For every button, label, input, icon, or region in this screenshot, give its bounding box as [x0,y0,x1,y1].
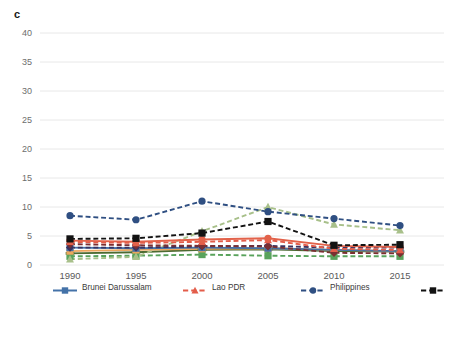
legend-swatch-icon [300,282,326,293]
legend-item-timor-leste[interactable]: Timor-Leste [420,281,450,294]
legend-item-brunei-darussalam[interactable]: Brunei Darussalam [52,281,182,294]
data-point-philippines-1990 [66,212,73,219]
x-tick-label: 2015 [389,270,410,280]
data-point-malaysia-2005 [264,235,271,242]
legend-item-lao-pdr[interactable]: Lao PDR [182,281,300,294]
data-point-philippines-2005 [264,208,271,215]
chart-svg: 0510152025303540 19901995200020052010201… [0,0,450,280]
data-point-philippines-2010 [330,215,337,222]
y-tick-label: 30 [22,86,32,96]
data-point-timor-leste-2005 [264,218,271,225]
legend-marker [62,287,68,293]
x-tick-label: 1990 [59,270,80,280]
y-tick-label: 20 [22,144,32,154]
series-line-myanmar [70,255,400,257]
y-axis-tick-labels: 0510152025303540 [22,28,32,270]
y-tick-label: 10 [22,202,32,212]
y-tick-label: 40 [22,28,32,38]
y-tick-label: 5 [27,231,32,241]
data-point-myanmar-2005 [264,252,271,259]
y-tick-label: 15 [22,173,32,183]
data-point-philippines-1995 [132,216,139,223]
data-point-timor-leste-1995 [132,235,139,242]
x-tick-label: 1995 [125,270,146,280]
chart-legend: Brunei DarussalamLao PDRPhilippinesTimor… [52,281,444,333]
legend-sample-icon [52,285,78,296]
legend-item-label: Philippines [330,282,370,293]
x-tick-label: 2005 [257,270,278,280]
x-axis-tick-labels: 199019952000200520102015 [59,270,410,280]
x-tick-label: 2000 [191,270,212,280]
series-lines [70,201,400,259]
data-point-philippines-2000 [198,198,205,205]
series-line-philippines [70,201,400,225]
legend-item-label: Brunei Darussalam [82,282,152,293]
plot-area: 0510152025303540 19901995200020052010201… [0,0,450,280]
data-point-timor-leste-2010 [330,242,337,249]
legend-marker [430,287,436,293]
legend-sample-icon [300,285,326,296]
legend-swatch-icon [182,282,208,293]
data-point-malaysia-2000 [198,236,205,243]
legend-swatch-icon [420,282,446,293]
data-point-philippines-2015 [396,222,403,229]
data-point-timor-leste-2015 [396,241,403,248]
data-point-timor-leste-1990 [66,235,73,242]
legend-item-philippines[interactable]: Philippines [300,281,420,294]
chart-container: c 0510152025303540 199019952000200520102… [0,0,450,338]
data-point-timor-leste-2000 [198,230,205,237]
legend-swatch-icon [52,282,78,293]
legend-sample-icon [420,285,446,296]
legend-marker [310,287,316,293]
x-tick-label: 2010 [323,270,344,280]
legend-sample-icon [182,285,208,296]
gridlines [40,33,444,265]
legend-item-label: Lao PDR [212,282,245,293]
y-tick-label: 25 [22,115,32,125]
y-tick-label: 35 [22,57,32,67]
y-tick-label: 0 [27,260,32,270]
